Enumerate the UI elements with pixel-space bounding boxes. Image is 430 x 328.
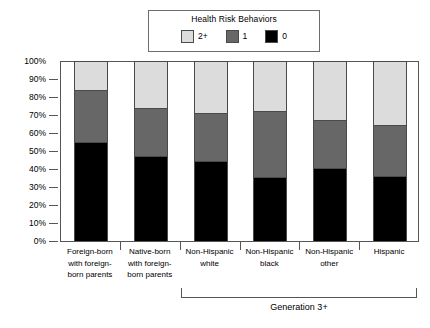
legend-label-0: 0 — [282, 32, 287, 41]
x-axis-category-labels: Foreign-born with foreign- born parentsN… — [60, 246, 419, 292]
legend-label-2plus: 2+ — [198, 32, 208, 41]
bar-segment-0[interactable] — [135, 157, 167, 241]
y-tick-label: 90% — [29, 75, 46, 84]
bar-segment-2plus[interactable] — [374, 62, 406, 126]
y-tick-mark — [49, 187, 58, 188]
x-category-label: Non-Hispanic other — [299, 246, 359, 269]
y-tick-mark — [49, 115, 58, 116]
x-category-label: Foreign-born with foreign- born parents — [60, 246, 120, 281]
legend-entry-1: 1 — [226, 30, 248, 43]
stacked-bar[interactable] — [134, 61, 168, 241]
bar-segment-2plus[interactable] — [195, 62, 227, 114]
legend-swatch-0 — [265, 30, 278, 43]
y-tick-label: 40% — [29, 165, 46, 174]
chart-figure: Health Risk Behaviors 2+ 1 0 100%90%80%7… — [0, 0, 430, 328]
generation-bracket-label: Generation 3+ — [181, 302, 417, 312]
y-tick-mark — [49, 79, 58, 80]
bar-segment-2plus[interactable] — [254, 62, 286, 112]
y-tick-mark — [49, 169, 58, 170]
y-tick-label: 20% — [29, 201, 46, 210]
category-divider — [299, 241, 300, 250]
bar-segment-0[interactable] — [254, 178, 286, 241]
y-tick-label: 70% — [29, 111, 46, 120]
bar-segment-0[interactable] — [195, 162, 227, 241]
x-category-label: Non-Hispanic white — [180, 246, 240, 269]
y-tick-label: 50% — [29, 147, 46, 156]
y-tick-mark — [49, 205, 58, 206]
x-category-label: Non-Hispanic black — [240, 246, 300, 269]
x-category-label: Native-born with foreign- born parents — [120, 246, 180, 281]
legend-title: Health Risk Behaviors — [149, 14, 319, 24]
category-divider — [180, 241, 181, 250]
bar-segment-0[interactable] — [75, 143, 107, 241]
generation-bracket — [181, 288, 417, 298]
bar-segment-2plus[interactable] — [135, 62, 167, 109]
y-tick-mark — [49, 241, 58, 242]
y-tick-label: 60% — [29, 129, 46, 138]
bar-segment-2plus[interactable] — [314, 62, 346, 121]
category-divider — [359, 241, 360, 250]
y-tick-label: 100% — [24, 57, 46, 66]
bar-segment-1[interactable] — [75, 91, 107, 143]
bar-segment-0[interactable] — [374, 177, 406, 241]
legend-entry-2plus: 2+ — [181, 30, 208, 43]
y-tick-label: 30% — [29, 183, 46, 192]
y-tick-mark — [49, 223, 58, 224]
legend-entry-0: 0 — [265, 30, 287, 43]
bar-segment-1[interactable] — [195, 114, 227, 162]
legend-label-1: 1 — [243, 32, 248, 41]
category-divider — [120, 241, 121, 250]
stacked-bar[interactable] — [253, 61, 287, 241]
bar-segment-1[interactable] — [254, 112, 286, 178]
y-axis: 100%90%80%70%60%50%40%30%20%10%0% — [0, 55, 58, 250]
legend-entries: 2+ 1 0 — [149, 30, 319, 43]
bar-segment-0[interactable] — [314, 169, 346, 241]
chart-legend: Health Risk Behaviors 2+ 1 0 — [148, 10, 320, 52]
category-divider — [240, 241, 241, 250]
stacked-bar[interactable] — [194, 61, 228, 241]
legend-swatch-1 — [226, 30, 239, 43]
bar-segment-1[interactable] — [135, 109, 167, 157]
stacked-bar[interactable] — [74, 61, 108, 241]
x-category-label: Hispanic — [359, 246, 419, 258]
y-tick-label: 80% — [29, 93, 46, 102]
stacked-bar[interactable] — [373, 61, 407, 241]
stacked-bar[interactable] — [313, 61, 347, 241]
y-tick-label: 10% — [29, 219, 46, 228]
y-tick-mark — [49, 151, 58, 152]
y-tick-mark — [49, 97, 58, 98]
legend-swatch-2plus — [181, 30, 194, 43]
y-tick-mark — [49, 133, 58, 134]
y-tick-label: 0% — [34, 237, 46, 246]
bar-segment-1[interactable] — [314, 121, 346, 169]
bar-segment-2plus[interactable] — [75, 62, 107, 91]
bar-segment-1[interactable] — [374, 126, 406, 176]
plot-area — [60, 61, 419, 242]
